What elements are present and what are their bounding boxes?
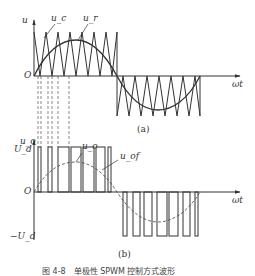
- panel-b-origin-label: O: [24, 187, 31, 196]
- output-pulses-positive: [38, 147, 111, 192]
- neg-level-label: −U_d: [10, 232, 35, 241]
- figure-caption: 图 4-8 单极性 SPWM 控制方式波形: [42, 265, 175, 276]
- output-pulses-negative: [123, 192, 198, 236]
- fundamental-label: u_of: [120, 152, 139, 161]
- carrier-label: u_c: [51, 14, 66, 23]
- panel-a-origin-label: O: [24, 71, 31, 80]
- pos-level-label: U_d: [14, 145, 32, 154]
- panel-a-y-label: u: [22, 16, 28, 25]
- projection-lines: [38, 76, 69, 147]
- panel-b-x-label: ωt: [232, 196, 243, 205]
- output-label: u_o: [82, 142, 98, 151]
- panel-a-x-label: ωt: [232, 80, 243, 89]
- carrier-positive: [34, 32, 117, 76]
- panel-b-sublabel: (b): [118, 250, 131, 259]
- panel-a-sublabel: (a): [137, 125, 149, 134]
- reference-label: u_r: [83, 14, 98, 23]
